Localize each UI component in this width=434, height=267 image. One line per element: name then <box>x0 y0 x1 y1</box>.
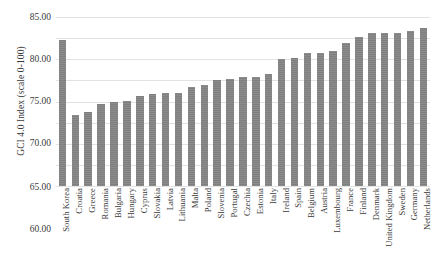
y-axis-tick-label: 75.00 <box>5 101 51 102</box>
x-axis-label-slot: United Kingdom <box>378 186 391 266</box>
x-axis-label-slot: Lithuania <box>172 186 185 266</box>
bar-slot <box>288 17 301 186</box>
y-axis-tick-label: 65.00 <box>5 187 51 188</box>
x-axis-label-slot: Sweden <box>391 186 404 266</box>
x-axis-tick-label: Sweden <box>398 160 407 188</box>
x-axis-tick-label: Slovenia <box>217 158 226 188</box>
x-axis-label-slot: Malta <box>185 186 198 266</box>
y-axis-tick-label: 60.00 <box>5 229 51 230</box>
x-axis-tick-label: Bulgaria <box>114 158 123 188</box>
x-axis-label-slot: Luxembourg <box>327 186 340 266</box>
x-axis-tick-label: France <box>346 164 355 188</box>
y-axis-tick-label: 85.00 <box>5 17 51 18</box>
x-axis-tick-label: Germany <box>410 156 419 188</box>
x-axis-label-slot: Cyprus <box>133 186 146 266</box>
x-axis-label-slot: Slovenia <box>211 186 224 266</box>
x-axis-tick-label: Hungary <box>127 158 136 188</box>
x-axis-label-slot: Croatia <box>69 186 82 266</box>
x-axis-label-slot: Austria <box>314 186 327 266</box>
x-axis-label-slot: Portugal <box>224 186 237 266</box>
y-axis-tick-label: 80.00 <box>5 59 51 60</box>
x-axis-tick-label: Belgium <box>307 158 316 188</box>
x-axis-label-slot: Italy <box>262 186 275 266</box>
x-axis-label-slot: South Korea <box>56 186 69 266</box>
x-axis-label-slot: Netherlands <box>417 186 430 266</box>
x-axis-tick-label: Cyprus <box>140 163 149 188</box>
x-axis-label-slot: Romania <box>95 186 108 266</box>
x-axis-tick-label: Greece <box>88 163 97 188</box>
x-axis-label-slot: Ireland <box>275 186 288 266</box>
x-axis-tick-label: Lithuania <box>178 155 187 188</box>
x-axis-tick-label: Romania <box>101 157 110 188</box>
x-axis-tick-label: Portugal <box>230 158 239 188</box>
bar-chart: GCI 4.0 Index (scale 0-100) 85.0080.0075… <box>0 0 434 267</box>
x-axis-tick-label: Croatia <box>75 162 84 188</box>
bar-slot <box>198 17 211 186</box>
x-axis-labels: South KoreaCroatiaGreeceRomaniaBulgariaH… <box>56 186 430 266</box>
x-axis-tick-label: Austria <box>320 162 329 188</box>
x-axis-label-slot: Belgium <box>301 186 314 266</box>
bar-slot <box>262 17 275 186</box>
x-axis-label-slot: Greece <box>82 186 95 266</box>
x-axis-label-slot: Czechia <box>236 186 249 266</box>
x-axis-tick-label: Slovakia <box>153 158 162 188</box>
y-axis-tick-label: 70.00 <box>5 143 51 144</box>
x-axis-label-slot: Spain <box>288 186 301 266</box>
x-axis-tick-label: Netherlands <box>423 146 432 188</box>
x-axis-label-slot: Estonia <box>249 186 262 266</box>
x-axis-tick-label: Finland <box>359 161 368 188</box>
x-axis-label-slot: Bulgaria <box>108 186 121 266</box>
x-axis-label-slot: Poland <box>198 186 211 266</box>
x-axis-label-slot: Slovakia <box>146 186 159 266</box>
x-axis-tick-label: South Korea <box>62 144 71 188</box>
x-axis-tick-label: Estonia <box>256 162 265 188</box>
x-axis-tick-label: Luxembourg <box>333 143 342 188</box>
x-axis-tick-label: Latvia <box>166 166 175 188</box>
x-axis-tick-label: Poland <box>204 164 213 188</box>
bar[interactable] <box>265 74 272 186</box>
x-axis-tick-label: United Kingdom <box>385 129 394 188</box>
x-axis-label-slot: Finland <box>352 186 365 266</box>
bar[interactable] <box>291 58 298 186</box>
x-axis-label-slot: Hungary <box>120 186 133 266</box>
x-axis-label-slot: Germany <box>404 186 417 266</box>
x-axis-label-slot: Latvia <box>159 186 172 266</box>
x-axis-tick-label: Czechia <box>243 160 252 188</box>
x-axis-tick-label: Malta <box>191 168 200 188</box>
x-axis-label-slot: France <box>340 186 353 266</box>
x-axis-tick-label: Ireland <box>282 163 291 188</box>
bar-slot <box>82 17 95 186</box>
bar-slot <box>275 17 288 186</box>
x-axis-tick-label: Denmark <box>372 156 381 188</box>
x-axis-label-slot: Denmark <box>365 186 378 266</box>
